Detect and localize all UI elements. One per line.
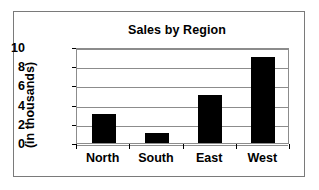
bar-south [145, 133, 169, 143]
gridline-10 [77, 49, 288, 50]
y-tick-label-10: 10 [0, 42, 25, 55]
x-category-label-south: South [129, 151, 182, 165]
x-tick-mark-0 [76, 144, 77, 149]
plot-area [76, 48, 289, 144]
x-tick-mark-3 [236, 144, 237, 149]
bar-west [251, 57, 275, 143]
y-tick-label-2: 2 [0, 119, 25, 132]
y-tick-label-6: 6 [0, 80, 25, 93]
y-tick-label-4: 4 [0, 100, 25, 113]
y-tick-label-0: 0 [0, 138, 25, 151]
x-category-label-west: West [236, 151, 289, 165]
chart-figure: Sales by Region (in thousands) 0246810 N… [13, 11, 305, 177]
x-tick-mark-2 [183, 144, 184, 149]
bar-east [198, 95, 222, 143]
y-tick-label-8: 8 [0, 61, 25, 74]
x-tick-mark-4 [289, 144, 290, 149]
chart-title: Sales by Region [14, 23, 306, 37]
y-axis-title: (in thousands) [23, 45, 37, 165]
bar-north [92, 114, 116, 143]
x-category-label-east: East [183, 151, 236, 165]
x-tick-mark-1 [129, 144, 130, 149]
x-category-label-north: North [76, 151, 129, 165]
